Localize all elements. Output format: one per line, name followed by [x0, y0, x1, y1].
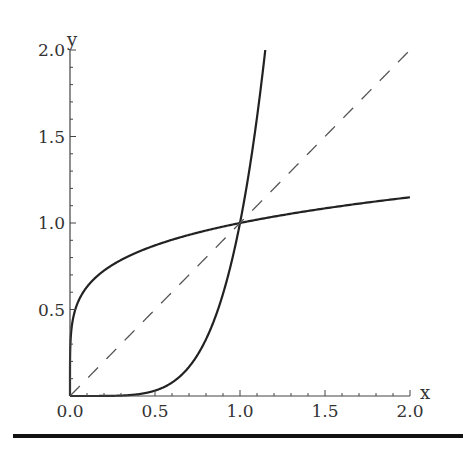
y-tick-label: 1.0	[38, 213, 65, 233]
x-tick-label: 2.0	[396, 401, 423, 421]
y-tick-label: 0.5	[38, 300, 65, 320]
x-tick-label: 1.5	[311, 401, 338, 421]
x-tick-label: 0.5	[141, 401, 168, 421]
y-tick-label: 1.5	[38, 127, 65, 147]
y-tick-label: 2.0	[38, 40, 65, 60]
x-tick-label: 0.0	[56, 401, 83, 421]
x-axis-label: x	[420, 382, 430, 403]
plot-area	[70, 50, 410, 396]
chart: 0.00.51.01.52.00.51.01.52.0xy	[0, 0, 463, 456]
series-line	[70, 50, 410, 396]
x-tick-label: 1.0	[226, 401, 253, 421]
y-axis-label: y	[66, 29, 78, 50]
